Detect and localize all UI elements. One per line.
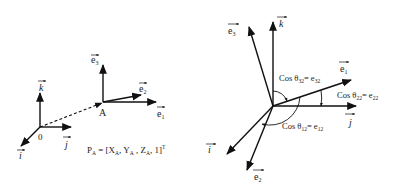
- svg-text:k: k: [279, 18, 284, 29]
- svg-text:j: j: [347, 117, 352, 128]
- e3-label: e3: [91, 54, 99, 66]
- svg-text:e2: e2: [254, 171, 261, 183]
- right-diagram: k e3 e1 j i e2 Cos θ32= e32: [206, 17, 378, 183]
- svg-text:i: i: [19, 150, 22, 161]
- j-label: j: [63, 137, 71, 150]
- svg-text:e3: e3: [228, 25, 235, 37]
- svg-text:e2: e2: [139, 83, 146, 95]
- i-label-right: i: [206, 144, 216, 155]
- svg-text:e1: e1: [157, 108, 164, 120]
- diagram-canvas: k j i 0 A e3 e2: [0, 0, 401, 188]
- e3-label-right: e3: [228, 24, 239, 37]
- world-frame: [21, 93, 71, 146]
- e2-axis-arrow: [103, 95, 141, 102]
- arc-theta-32: [273, 91, 287, 101]
- svg-text:i: i: [208, 144, 211, 155]
- svg-text:e3: e3: [91, 54, 98, 66]
- e1-label: e1: [157, 107, 165, 120]
- left-diagram: k j i 0 A e3 e2: [17, 54, 166, 161]
- origin-label: 0: [38, 132, 43, 142]
- e1-axis-arrow-right: [247, 106, 273, 170]
- svg-text:j: j: [63, 139, 68, 150]
- position-formula: PA = [XA, YA , ZA, 1]T: [87, 144, 166, 156]
- e2-label: e2: [139, 83, 147, 95]
- arc-theta-22: [321, 90, 322, 106]
- position-vector-dashed: [40, 103, 102, 127]
- e1-label-right: e2: [253, 170, 264, 183]
- cos-theta-22-label: Cos θ22= e22: [337, 90, 378, 101]
- svg-text:k: k: [39, 82, 44, 93]
- j-label-right: j: [345, 114, 355, 128]
- cos-theta-32-label: Cos θ32= e32: [279, 73, 320, 84]
- point-a-label: A: [99, 107, 107, 118]
- k-label-right: k: [277, 17, 287, 29]
- e3-axis-arrow-right: [249, 27, 273, 106]
- i-label: i: [17, 150, 25, 161]
- local-frame: [103, 65, 156, 102]
- cos-theta-12-label: Cos θ12= e12: [282, 121, 323, 132]
- i-axis-arrow-right: [227, 106, 273, 154]
- k-label: k: [38, 81, 46, 93]
- e2-label-right: e1: [339, 62, 349, 75]
- svg-text:e1: e1: [340, 63, 347, 75]
